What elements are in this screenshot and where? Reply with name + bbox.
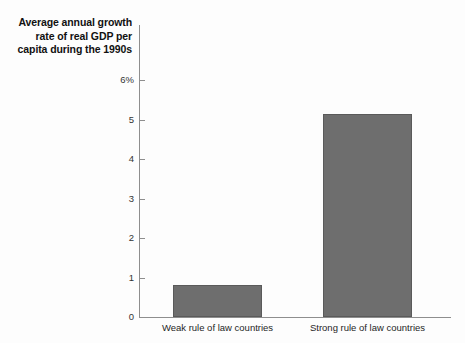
chart-title-line-3: capita during the 1990s: [8, 43, 132, 57]
y-tick-label: 3: [92, 194, 134, 204]
y-tick-label: 2: [92, 233, 134, 243]
chart-title-line-1: Average annual growth: [8, 16, 132, 30]
y-tick-label: 5: [92, 115, 134, 125]
x-axis-category-label: Strong rule of law countries: [288, 322, 448, 334]
x-axis-category-label: Weak rule of law countries: [138, 322, 298, 334]
y-tick-mark: [140, 120, 145, 121]
y-tick-mark: [140, 80, 145, 81]
y-tick-mark: [140, 278, 145, 279]
y-tick-label: 4: [92, 154, 134, 164]
y-tick-label: 0: [92, 312, 134, 322]
y-tick-label: 1: [92, 273, 134, 283]
y-tick-mark: [140, 238, 145, 239]
bar: [323, 114, 412, 317]
y-axis-line: [139, 25, 140, 318]
y-tick-mark: [140, 159, 145, 160]
chart-title-line-2: rate of real GDP per: [8, 30, 132, 44]
x-axis-line: [139, 317, 451, 318]
bar-chart: Average annual growth rate of real GDP p…: [0, 0, 465, 343]
chart-title: Average annual growth rate of real GDP p…: [8, 16, 132, 57]
y-tick-label: 6%: [92, 75, 134, 85]
y-tick-mark: [140, 199, 145, 200]
y-tick-mark: [140, 317, 145, 318]
bar: [173, 285, 262, 317]
